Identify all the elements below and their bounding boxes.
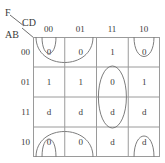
cell-r0-c0: 0	[33, 37, 65, 67]
row-header-2: 11	[8, 108, 30, 117]
cell-r1-c1: 1	[65, 67, 97, 97]
cell-r2-c2: d	[97, 97, 129, 127]
cell-r3-c2: d	[97, 127, 129, 157]
kmap-grid: 0 0 1 0 1 1 0 1 d d d d 0 0 d d	[33, 37, 160, 157]
cell-r2-c0: d	[33, 97, 65, 127]
cell-r0-c3: 0	[128, 37, 160, 67]
cell-r3-c1: 0	[65, 127, 97, 157]
row-header-0: 00	[8, 48, 30, 57]
karnaugh-map: F CD AB 00 01 11 10 00 01 11 10 0 0 1 0 …	[0, 0, 165, 163]
column-header-1: 01	[65, 25, 96, 34]
column-header-0: 00	[33, 25, 64, 34]
cell-r3-c3: d	[128, 127, 160, 157]
cell-r1-c0: 1	[33, 67, 65, 97]
cell-r3-c0: 0	[33, 127, 65, 157]
cell-r0-c1: 0	[65, 37, 97, 67]
row-header-3: 10	[8, 138, 30, 147]
cell-r2-c1: d	[65, 97, 97, 127]
column-header-2: 11	[97, 25, 128, 34]
cell-r1-c3: 1	[128, 67, 160, 97]
cell-r0-c2: 1	[97, 37, 129, 67]
cell-r2-c3: d	[128, 97, 160, 127]
column-header-3: 10	[128, 25, 159, 34]
corner-divider-lines	[0, 0, 40, 40]
cell-r1-c2: 0	[97, 67, 129, 97]
row-header-1: 01	[8, 78, 30, 87]
